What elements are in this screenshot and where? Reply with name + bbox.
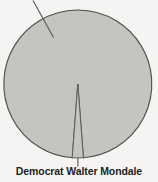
pie-chart-figure: Democrat Walter Mondale xyxy=(0,0,158,182)
pie-chart-graphic xyxy=(0,0,158,182)
pie-slice-label-democrat-walter-mondale: Democrat Walter Mondale xyxy=(0,165,158,178)
